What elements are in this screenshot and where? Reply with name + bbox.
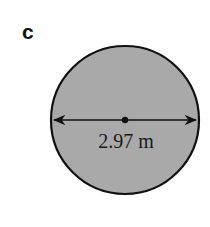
diameter-label: 2.97 m (98, 130, 154, 152)
circle-diagram: 2.97 m (0, 0, 210, 227)
center-point (122, 117, 128, 123)
